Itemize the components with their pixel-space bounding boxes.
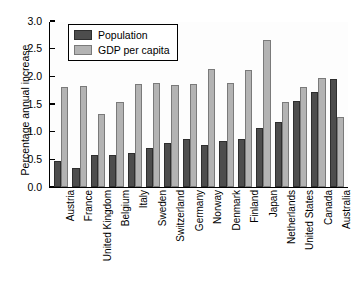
x-axis-labels: AustriaFranceUnited KingdomBelgiumItalyS… (49, 190, 348, 290)
bar-population (54, 161, 61, 187)
bar-gdp-per-capita (98, 114, 105, 187)
x-label-cell: Canada (309, 190, 327, 290)
y-tick-label: 2.0 (27, 69, 42, 84)
bar-population (256, 128, 263, 187)
x-label-cell: Japan (254, 190, 272, 290)
legend-label-gdp-per-capita: GDP per capita (98, 44, 170, 56)
y-tick-label: 0.5 (27, 152, 42, 167)
legend-label-population: Population (98, 29, 148, 41)
bar-gdp-per-capita (245, 70, 252, 187)
y-tick-label: 1.0 (27, 124, 42, 139)
chart-legend: Population GDP per capita (68, 24, 178, 61)
legend-item-gdp-per-capita: GDP per capita (74, 44, 170, 56)
bar-population (311, 92, 318, 187)
bar-gdp-per-capita (300, 87, 307, 187)
bar-group (181, 22, 199, 187)
bar-gdp-per-capita (116, 102, 123, 187)
bar-group (199, 22, 217, 187)
x-label-cell: Norway (199, 190, 217, 290)
bar-population (146, 148, 153, 187)
bar-population (109, 155, 116, 187)
bar-gdp-per-capita (282, 102, 289, 187)
x-label-cell: Denmark (217, 190, 235, 290)
x-label-cell: Finland (235, 190, 253, 290)
x-label-cell: Germany (180, 190, 198, 290)
bar-group (254, 22, 272, 187)
y-tick-label: 1.5 (27, 97, 42, 112)
x-label-cell: United Kingdom (88, 190, 106, 290)
bar-population (91, 155, 98, 187)
x-label-cell: Belgium (106, 190, 124, 290)
bar-gdp-per-capita (337, 117, 344, 187)
x-label-cell: Netherlands (272, 190, 290, 290)
bar-gdp-per-capita (208, 69, 215, 187)
bar-population (330, 79, 337, 187)
bar-gdp-per-capita (190, 84, 197, 187)
bar-population (219, 141, 226, 187)
bar-gdp-per-capita (135, 84, 142, 187)
bar-chart: Percentage annual increase 0.00.51.01.52… (0, 0, 359, 294)
y-tick-label: 0.0 (27, 180, 42, 195)
bar-population (183, 139, 190, 187)
bar-gdp-per-capita (61, 87, 68, 187)
legend-swatch-gdp-per-capita (74, 45, 92, 55)
bar-group (273, 22, 291, 187)
legend-item-population: Population (74, 29, 170, 41)
x-label-cell: Switzerland (162, 190, 180, 290)
bar-gdp-per-capita (171, 85, 178, 187)
bar-group (328, 22, 346, 187)
x-label-cell: Italy (125, 190, 143, 290)
x-axis-label: Australia (341, 190, 352, 229)
bar-population (238, 139, 245, 187)
x-label-cell: France (69, 190, 87, 290)
bar-gdp-per-capita (263, 40, 270, 187)
bar-population (128, 153, 135, 187)
x-label-cell: Australia (328, 190, 346, 290)
bar-gdp-per-capita (318, 78, 325, 187)
bar-population (293, 101, 300, 187)
x-label-cell: Sweden (143, 190, 161, 290)
x-label-cell: Austria (51, 190, 69, 290)
bar-group (217, 22, 235, 187)
bar-population (72, 168, 79, 187)
bar-gdp-per-capita (153, 83, 160, 187)
bar-group (309, 22, 327, 187)
bar-group (236, 22, 254, 187)
bar-population (201, 145, 208, 187)
bar-population (164, 143, 171, 187)
y-tick-label: 2.5 (27, 41, 42, 56)
legend-swatch-population (74, 30, 92, 40)
x-label-cell: United States (291, 190, 309, 290)
bar-population (275, 122, 282, 187)
y-tick-label: 3.0 (27, 14, 42, 29)
bar-group (291, 22, 309, 187)
bar-gdp-per-capita (227, 83, 234, 187)
bar-gdp-per-capita (80, 86, 87, 187)
